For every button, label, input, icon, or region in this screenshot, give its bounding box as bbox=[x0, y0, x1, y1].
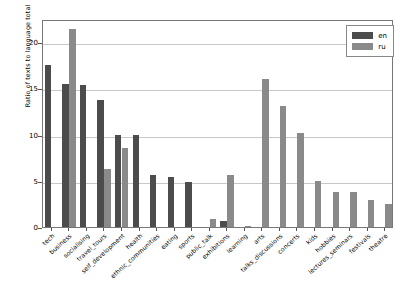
bar-group bbox=[255, 21, 269, 227]
x-tick-mark bbox=[279, 228, 280, 231]
bar-en-exhibitions bbox=[220, 221, 226, 227]
x-tick-mark bbox=[244, 228, 245, 231]
bar-ru-lectures_seminars bbox=[350, 192, 356, 227]
bar-en-tech bbox=[45, 65, 51, 227]
x-tick-mark bbox=[174, 228, 175, 231]
x-tick-mark bbox=[314, 228, 315, 231]
bar-ru-festivals bbox=[368, 200, 374, 227]
bar-group bbox=[220, 21, 234, 227]
x-tick-mark bbox=[191, 228, 192, 231]
bar-ru-exhibitions bbox=[227, 175, 233, 227]
bar-group bbox=[326, 21, 340, 227]
x-tick-mark bbox=[332, 228, 333, 231]
x-tick-mark bbox=[261, 228, 262, 231]
bar-group bbox=[62, 21, 76, 227]
legend-label-en: en bbox=[378, 32, 387, 40]
bar-group bbox=[308, 21, 322, 227]
bar-en-business bbox=[62, 84, 68, 227]
x-tick-mark bbox=[209, 228, 210, 231]
y-axis-title: Ratio of texts to language total bbox=[24, 0, 32, 146]
x-tick-mark bbox=[86, 228, 87, 231]
y-tick-label: 10 bbox=[10, 132, 38, 140]
bar-group bbox=[80, 21, 94, 227]
bar-ru-kids bbox=[315, 181, 321, 227]
bar-en-self_development bbox=[115, 135, 121, 227]
bar-group bbox=[115, 21, 129, 227]
bar-group bbox=[168, 21, 182, 227]
bar-group bbox=[185, 21, 199, 227]
legend-swatch-en bbox=[352, 32, 373, 39]
bar-ru-talks_discussions bbox=[280, 106, 286, 227]
bar-group bbox=[133, 21, 147, 227]
bar-group bbox=[238, 21, 252, 227]
bar-group bbox=[150, 21, 164, 227]
bar-en-ethnic_communities bbox=[150, 175, 156, 227]
y-tick-label: 15 bbox=[10, 85, 38, 93]
bar-ru-self_development bbox=[122, 148, 128, 227]
bar-en-sports bbox=[185, 182, 191, 227]
x-tick-mark bbox=[68, 228, 69, 231]
chart-legend: enru bbox=[346, 25, 394, 57]
y-tick-label: 0 bbox=[10, 224, 38, 232]
bar-ru-public_talk bbox=[210, 219, 216, 227]
x-tick-mark bbox=[121, 228, 122, 231]
bar-group bbox=[290, 21, 304, 227]
x-tick-mark bbox=[51, 228, 52, 231]
bar-ru-theatre bbox=[385, 204, 391, 227]
bar-ru-business bbox=[69, 29, 75, 227]
legend-item-en: en bbox=[352, 30, 387, 41]
bar-group bbox=[45, 21, 59, 227]
bars-layer bbox=[43, 21, 392, 227]
bar-en-socialising bbox=[80, 85, 86, 227]
y-tick-label: 20 bbox=[10, 39, 38, 47]
x-tick-mark bbox=[156, 228, 157, 231]
bar-chart-figure: Ratio of texts to language total 0510152… bbox=[0, 0, 400, 306]
y-tick-mark bbox=[38, 228, 42, 229]
bar-ru-hobbies bbox=[333, 192, 339, 227]
x-tick-mark bbox=[296, 228, 297, 231]
legend-item-ru: ru bbox=[352, 41, 387, 52]
bar-ru-learning bbox=[245, 226, 251, 227]
legend-swatch-ru bbox=[352, 43, 373, 50]
x-tick-mark bbox=[139, 228, 140, 231]
plot-area bbox=[42, 20, 393, 228]
x-tick-mark bbox=[349, 228, 350, 231]
y-tick-label: 5 bbox=[10, 178, 38, 186]
bar-group bbox=[203, 21, 217, 227]
x-tick-mark bbox=[103, 228, 104, 231]
bar-group bbox=[273, 21, 287, 227]
bar-en-eating bbox=[168, 177, 174, 227]
bar-group bbox=[97, 21, 111, 227]
bar-en-travel_tours bbox=[97, 100, 103, 227]
bar-en-health bbox=[133, 135, 139, 227]
bar-ru-arts bbox=[262, 79, 268, 227]
bar-ru-travel_tours bbox=[104, 169, 110, 227]
x-tick-mark bbox=[367, 228, 368, 231]
x-tick-mark bbox=[226, 228, 227, 231]
x-tick-mark bbox=[384, 228, 385, 231]
bar-ru-concerts bbox=[297, 133, 303, 227]
legend-label-ru: ru bbox=[378, 43, 385, 51]
